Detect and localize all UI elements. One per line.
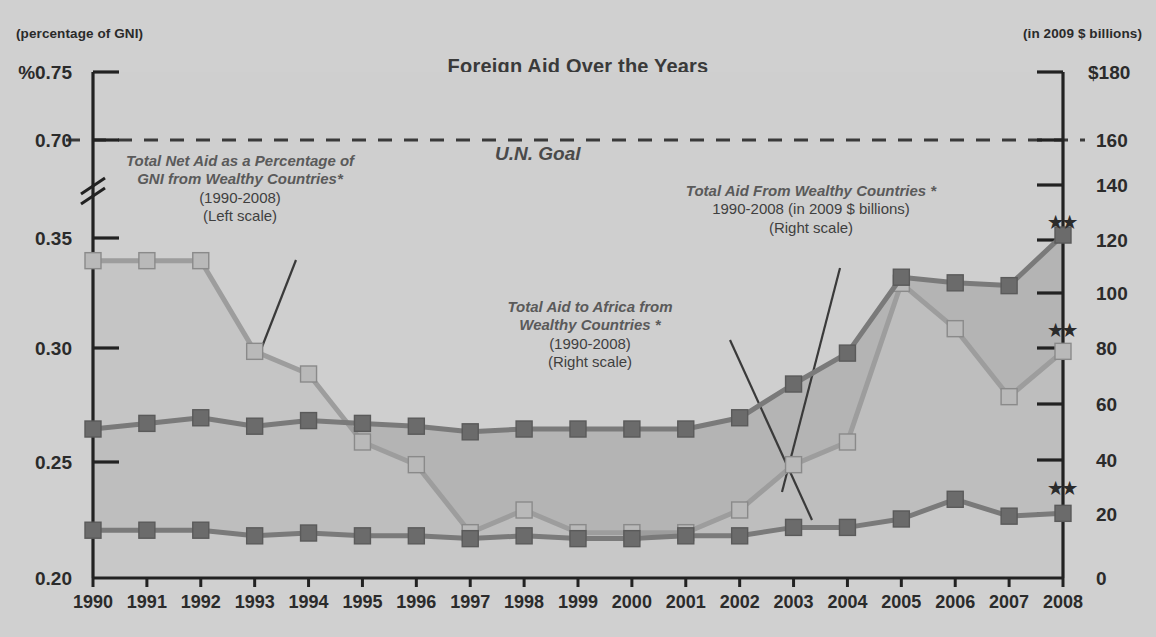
y2-axis-tick-160: 160 [1096,130,1128,152]
y2-axis-tick-140: 140 [1096,175,1128,197]
footnote-marker-africa: ★★ [1048,478,1076,499]
y2-axis-tick-40: 40 [1096,450,1117,472]
y-axis-tick-0.75: %0.75 [0,62,72,84]
aid-to-africa-callout: Total Aid to Africa from Wealthy Countri… [445,298,735,371]
y2-axis-tick-0: 0 [1096,568,1107,590]
y2-axis-tick-20: 20 [1096,504,1117,526]
y2-axis-tick-60: 60 [1096,394,1117,416]
callout-line-3: (1990-2008) [445,335,735,353]
y-axis-tick-0.30: 0.30 [0,338,72,360]
callout-line-4: (Right scale) [445,353,735,371]
footnote-marker-gni: ★★ [1048,320,1076,341]
y-axis-tick-0.70: 0.70 [0,130,72,152]
y2-axis-tick-80: 80 [1096,338,1117,360]
y2-axis-tick-180: $180 [1088,62,1130,84]
y-axis-tick-0.25: 0.25 [0,452,72,474]
callout-line-4: (Left scale) [70,207,410,225]
foreign-aid-chart: (percentage of GNI) (in 2009 $ billions)… [0,0,1156,637]
callout-line-1: Total Aid to Africa from [445,298,735,316]
total-aid-callout: Total Aid From Wealthy Countries * 1990-… [630,182,992,237]
callout-line-2: 1990-2008 (in 2009 $ billions) [630,200,992,218]
y2-axis-tick-120: 120 [1096,230,1128,252]
footnote-marker-total-aid: ★★ [1048,212,1076,233]
un-goal-label: U.N. Goal [495,143,581,165]
callout-line-1: Total Net Aid as a Percentage of [70,152,410,170]
y2-axis-tick-100: 100 [1096,283,1128,305]
callout-line-3: (Right scale) [630,219,992,237]
callout-line-2: GNI from Wealthy Countries* [70,170,410,188]
y-axis-tick-0.20: 0.20 [0,568,72,590]
callout-line-2: Wealthy Countries * [445,316,735,334]
y-axis-tick-0.35: 0.35 [0,228,72,250]
x-axis-tick-2008: 2008 [1029,592,1097,613]
gni-percentage-callout: Total Net Aid as a Percentage of GNI fro… [70,152,410,225]
callout-line-1: Total Aid From Wealthy Countries * [630,182,992,200]
callout-line-3: (1990-2008) [70,189,410,207]
